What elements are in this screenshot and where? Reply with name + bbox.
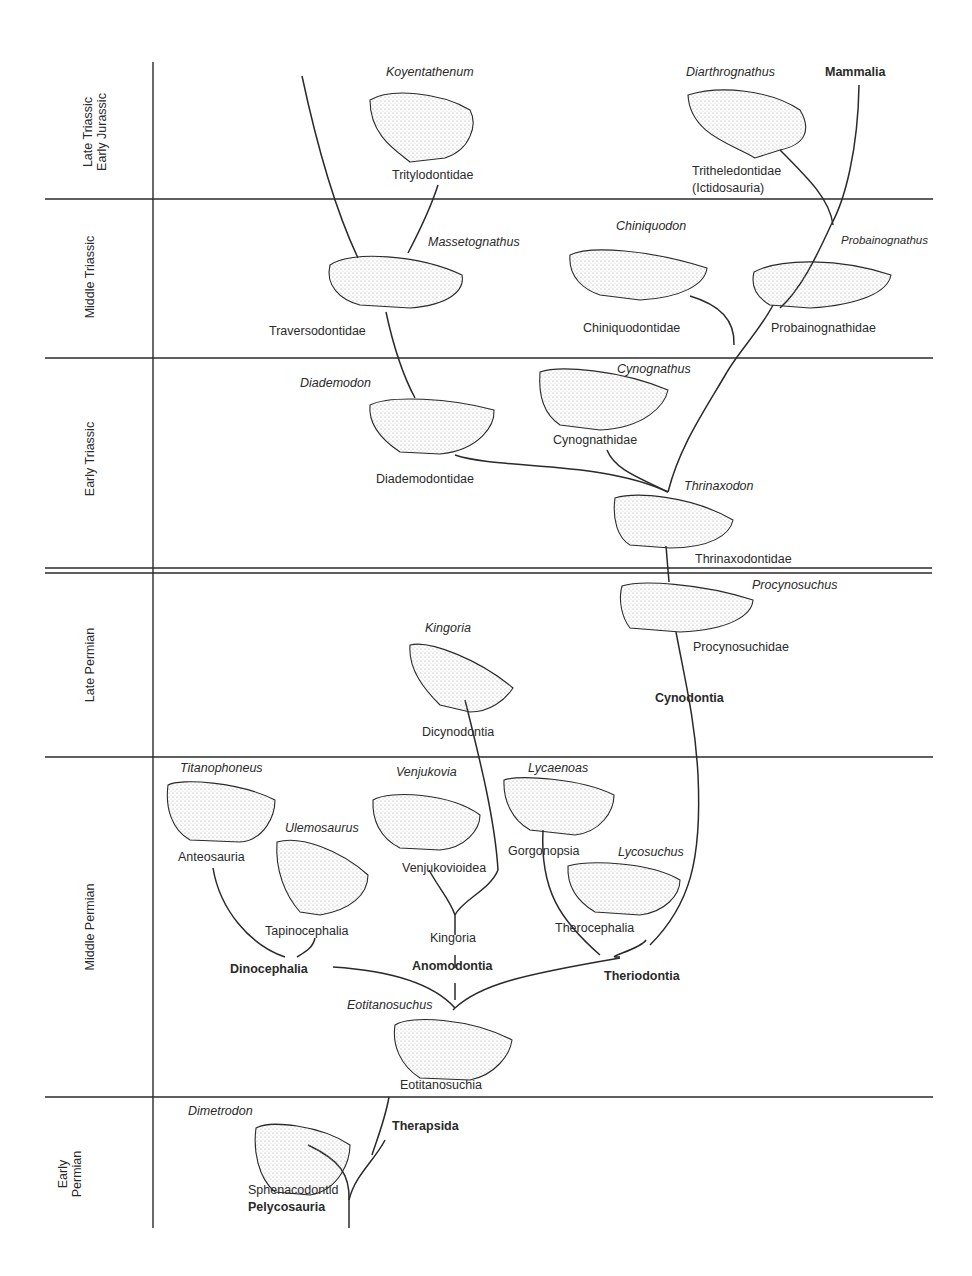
genus-label-koyentathenum: Koyentathenum	[386, 66, 474, 79]
period-label-early-permian: Early Permian	[56, 1134, 84, 1214]
family-label-tritheledontidae: Tritheledontidae	[692, 165, 781, 178]
genus-label-dimetrodon: Dimetrodon	[188, 1105, 253, 1118]
therapsid-phylogeny-diagram: Late Triassic Early Jurassic Middle Tria…	[0, 0, 972, 1276]
family-label-kingoria: Kingoria	[430, 932, 476, 945]
genus-label-eotitanosuchus: Eotitanosuchus	[347, 999, 432, 1012]
period-label-middle-permian: Middle Permian	[83, 867, 97, 987]
genus-label-lycosuchus: Lycosuchus	[618, 846, 684, 859]
clade-label-theriodontia: Theriodontia	[604, 970, 680, 983]
genus-label-venjukovia: Venjukovia	[396, 766, 457, 779]
genus-label-massetognathus: Massetognathus	[428, 236, 520, 249]
genus-label-thrinaxodon: Thrinaxodon	[684, 480, 754, 493]
genus-label-kingoria: Kingoria	[425, 622, 471, 635]
clade-label-pelycosauria: Pelycosauria	[248, 1201, 325, 1214]
family-label-anteosauria: Anteosauria	[178, 851, 245, 864]
family-label-sphenacodontid: Sphenacodontid	[248, 1184, 338, 1197]
family-label-venjukovioidea: Venjukovioidea	[402, 862, 486, 875]
period-label-middle-triassic: Middle Triassic	[83, 217, 97, 337]
genus-label-ulemosaurus: Ulemosaurus	[285, 822, 359, 835]
family-label-ictidosauria: (Ictidosauria)	[692, 182, 764, 195]
genus-label-diarthrognathus: Diarthrognathus	[686, 66, 775, 79]
genus-label-cynognathus: Cynognathus	[617, 363, 691, 376]
period-label-late-permian: Late Permian	[83, 605, 97, 725]
family-label-dicynodontia: Dicynodontia	[422, 726, 494, 739]
family-label-chiniquodontidae: Chiniquodontidae	[583, 322, 680, 335]
family-label-cynognathidae: Cynognathidae	[553, 434, 637, 447]
family-label-procynosuchidae: Procynosuchidae	[693, 641, 789, 654]
genus-label-procynosuchus: Procynosuchus	[752, 579, 837, 592]
family-label-diademodontidae: Diademodontidae	[376, 473, 474, 486]
genus-label-chiniquodon: Chiniquodon	[616, 220, 686, 233]
family-label-thrinaxodontidae: Thrinaxodontidae	[695, 553, 792, 566]
period-label-early-triassic: Early Triassic	[83, 399, 97, 519]
period-label-late-triassic-early-jurassic: Late Triassic Early Jurassic	[81, 72, 109, 192]
genus-label-titanophoneus: Titanophoneus	[180, 762, 263, 775]
family-label-tritylodontidae: Tritylodontidae	[392, 169, 474, 182]
family-label-therocephalia: Therocephalia	[555, 922, 634, 935]
clade-label-cynodontia: Cynodontia	[655, 692, 724, 705]
clade-label-therapsida: Therapsida	[392, 1120, 459, 1133]
clade-label-mammalia: Mammalia	[825, 66, 885, 79]
family-label-traversodontidae: Traversodontidae	[269, 325, 366, 338]
family-label-gorgonopsia: Gorgonopsia	[508, 845, 580, 858]
genus-label-lycaenoas: Lycaenoas	[528, 762, 588, 775]
family-label-tapinocephalia: Tapinocephalia	[265, 925, 348, 938]
family-label-eotitanosuchia: Eotitanosuchia	[400, 1079, 482, 1092]
family-label-probainognathidae: Probainognathidae	[771, 322, 876, 335]
clade-label-anomodontia: Anomodontia	[412, 960, 493, 973]
genus-label-probainognathus: Probainognathus	[841, 235, 928, 247]
genus-label-diademodon: Diademodon	[300, 377, 371, 390]
clade-label-dinocephalia: Dinocephalia	[230, 963, 308, 976]
diagram-lines	[0, 0, 972, 1276]
